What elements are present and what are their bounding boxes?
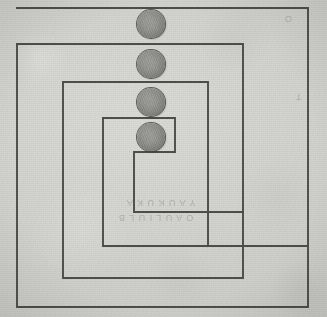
spiral-arm-inner: [103, 118, 243, 212]
coin-4[interactable]: [137, 123, 165, 151]
coin-1[interactable]: [137, 10, 165, 38]
scanned-figure: O T Y A U K U K A O A U L I U L B: [0, 0, 327, 317]
spiral-arm-third: [63, 82, 208, 246]
coin-2[interactable]: [137, 50, 165, 78]
spiral-arm-second: [17, 44, 243, 278]
coin-3[interactable]: [137, 88, 165, 116]
spiral-drawing: [0, 0, 327, 317]
spiral-arm-outer: [17, 8, 308, 307]
